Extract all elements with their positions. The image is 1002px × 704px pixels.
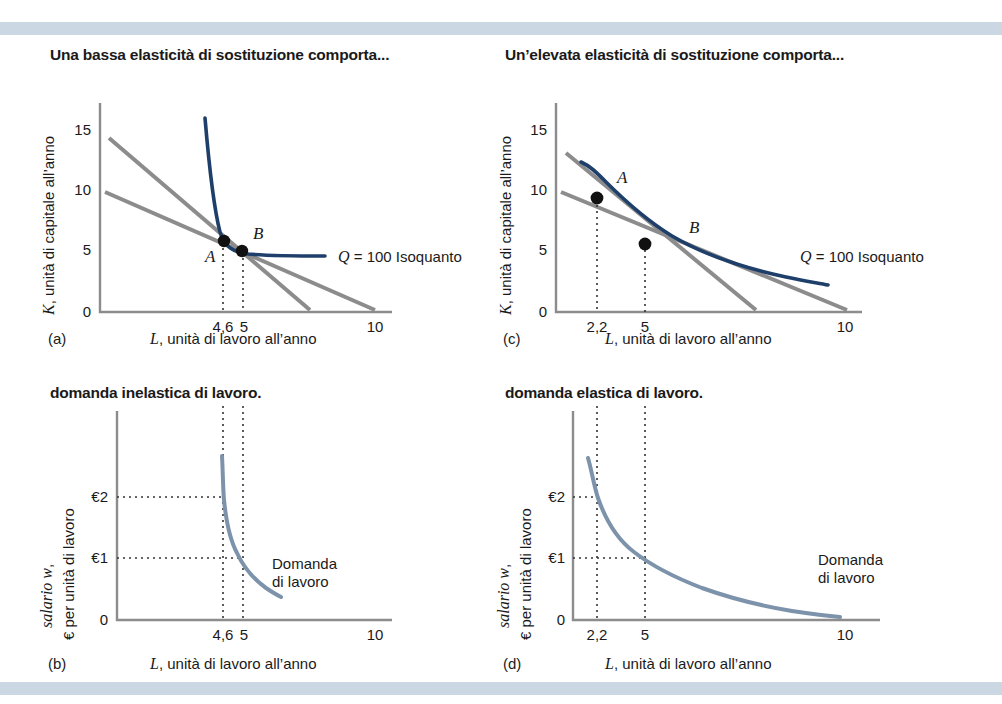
panel-d-axes — [573, 411, 880, 620]
panel-d-demand-curve — [588, 458, 840, 617]
panel-d-plot — [0, 0, 1002, 704]
